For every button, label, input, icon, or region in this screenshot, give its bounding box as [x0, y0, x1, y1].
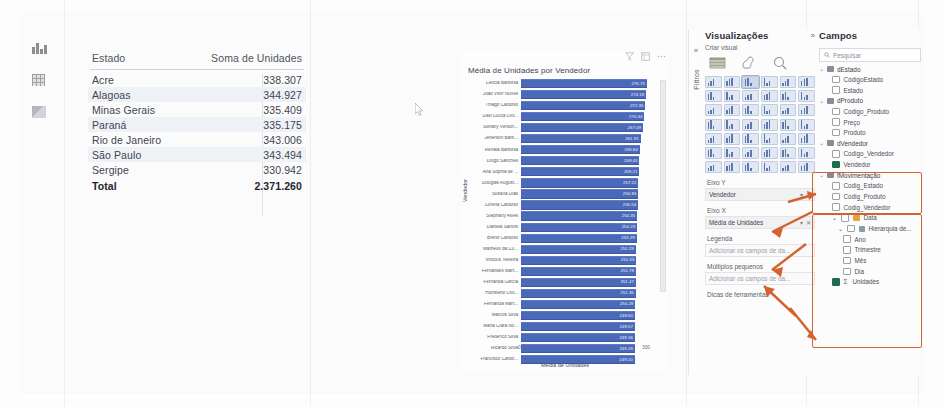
chevron-down-icon[interactable]: ⌄	[838, 225, 843, 232]
visual-type-icon[interactable]	[798, 90, 815, 102]
fields-field-node[interactable]: Trimestre	[843, 246, 921, 254]
fields-field-node[interactable]: Codig_Vendedor	[832, 203, 921, 211]
visual-type-icon[interactable]	[742, 133, 759, 145]
visual-type-icon[interactable]	[780, 119, 797, 131]
field-checkbox[interactable]	[832, 182, 840, 190]
visual-type-icon[interactable]	[705, 104, 722, 116]
fields-field-node[interactable]: Preço	[832, 118, 921, 126]
table-visual[interactable]: Estado Soma de Unidades Acre338.307Alago…	[88, 52, 306, 220]
visual-type-icon[interactable]	[761, 104, 778, 116]
well-slot[interactable]: Vendedor▾✕	[705, 188, 815, 201]
model-view-icon[interactable]	[32, 106, 46, 118]
field-checkbox[interactable]	[847, 225, 855, 233]
fields-tree[interactable]: ⌄dEstadoCódigoEstadoEstado⌄dProdutoCodig…	[819, 66, 921, 286]
field-checkbox[interactable]	[832, 118, 840, 126]
field-checkbox[interactable]	[843, 268, 851, 276]
fields-search-input[interactable]: Pesquisar	[819, 48, 921, 62]
field-checkbox[interactable]	[841, 214, 849, 222]
chart-bar-row[interactable]: Stefany Venturi...267.09	[466, 122, 658, 133]
table-row[interactable]: Paraná335.175	[88, 117, 306, 132]
remove-field-icon[interactable]: ✕	[806, 191, 811, 198]
chart-bar-row[interactable]: Matheus da Cu...251.29	[466, 244, 658, 255]
chart-bar-row[interactable]: Marcos Silva249.60	[466, 310, 658, 321]
visual-type-icon[interactable]	[798, 147, 815, 159]
visual-type-icon[interactable]	[705, 76, 722, 88]
chart-bar-row[interactable]: Humberto Oliv...251.35	[466, 288, 658, 299]
visual-type-icon[interactable]	[780, 104, 797, 116]
chevron-down-icon[interactable]: ▾	[800, 191, 803, 198]
field-checkbox[interactable]	[832, 129, 840, 137]
fields-table-node[interactable]: ⌄fMovimentação	[819, 172, 921, 179]
visual-type-icon[interactable]	[780, 133, 797, 145]
visual-type-icon[interactable]	[724, 133, 741, 145]
fields-field-node[interactable]: Mês	[843, 257, 921, 265]
visual-type-icon[interactable]	[742, 90, 759, 102]
chart-bar-row[interactable]: João Vitor Nunes274.18	[466, 89, 658, 100]
fields-field-node[interactable]: Dia	[843, 268, 921, 276]
table-row[interactable]: Rio de Janeiro343.006	[88, 132, 306, 147]
analytics-icon[interactable]	[771, 56, 788, 70]
visual-type-icon[interactable]	[705, 119, 722, 131]
chart-bar-row[interactable]: Frederico Silva249.36	[466, 332, 658, 343]
well-actions[interactable]: ▾✕	[800, 219, 811, 226]
visual-type-icon[interactable]	[724, 90, 741, 102]
visual-header-icons[interactable]	[625, 52, 666, 61]
chart-bar-row[interactable]: Vinicius Teixeira252.33	[466, 255, 658, 266]
fields-field-node[interactable]: Codig_Estado	[832, 182, 921, 190]
field-checkbox[interactable]	[832, 193, 840, 201]
visual-type-icon[interactable]	[761, 76, 778, 88]
visual-type-icon[interactable]	[780, 161, 797, 173]
chevron-right-icon[interactable]: »	[811, 31, 815, 40]
chart-scrollbar[interactable]	[660, 80, 666, 292]
field-checkbox[interactable]	[832, 86, 840, 94]
chart-bar-row[interactable]: Stephany Alves254.35	[466, 211, 658, 222]
report-view-icon[interactable]	[32, 42, 46, 54]
well-actions[interactable]: ▾✕	[800, 191, 811, 198]
chevron-down-icon[interactable]: ⌄	[819, 98, 824, 104]
field-checkbox[interactable]	[843, 235, 851, 243]
chart-bar-row[interactable]: Fernanda Mart...250.29	[466, 299, 658, 310]
chart-bar-row[interactable]: Susana Dias256.83	[466, 188, 658, 199]
fields-table-node[interactable]: ⌄dVendedor	[819, 140, 921, 147]
field-checkbox[interactable]	[843, 246, 851, 254]
visual-type-icon[interactable]	[798, 133, 815, 145]
fields-table-node[interactable]: ⌄dEstado	[819, 66, 921, 73]
chart-bar-row[interactable]: Maria Clara No...249.57	[466, 321, 658, 332]
well-slot[interactable]: Adicionar os campos de da...	[705, 244, 815, 257]
table-row[interactable]: Alagoas344.927	[88, 87, 306, 102]
visual-type-icon[interactable]	[724, 104, 741, 116]
visual-type-icon[interactable]	[761, 90, 778, 102]
visual-type-icon[interactable]	[780, 76, 797, 88]
chevron-down-icon[interactable]: ⌄	[819, 66, 824, 72]
field-checkbox[interactable]	[843, 257, 851, 265]
fields-field-node[interactable]: Codigo_Vendedor	[832, 150, 921, 158]
chart-bar-row[interactable]: Letícia Barbosa275.75	[466, 78, 658, 89]
build-visual-icon[interactable]	[709, 56, 726, 70]
fields-field-node[interactable]: ⌄Hierarquia de...	[838, 225, 921, 233]
format-visual-icon[interactable]	[740, 56, 757, 70]
visual-type-icon[interactable]	[780, 90, 797, 102]
visual-type-icon[interactable]	[761, 133, 778, 145]
table-row[interactable]: Acre338.307	[88, 72, 306, 87]
visual-type-icon[interactable]	[742, 147, 759, 159]
chart-bar-row[interactable]: Thiago Cardoso272.35	[466, 100, 658, 111]
focus-mode-icon[interactable]	[641, 52, 650, 61]
field-checkbox[interactable]	[832, 278, 840, 286]
fields-field-node[interactable]: CódigoEstado	[832, 76, 921, 84]
fields-field-node[interactable]: Ano	[843, 235, 921, 243]
chart-bar-row[interactable]: Daniela Santos254.23	[466, 222, 658, 233]
visual-type-icon[interactable]	[761, 147, 778, 159]
chevron-down-icon[interactable]: ⌄	[819, 172, 824, 178]
well-slot[interactable]: Adicionar os campos de da...	[705, 272, 815, 285]
data-view-icon[interactable]	[32, 74, 45, 86]
visual-type-icon[interactable]	[742, 119, 759, 131]
visual-type-icon[interactable]	[724, 147, 741, 159]
table-row[interactable]: Sergipe330.942	[88, 162, 306, 177]
chevron-down-icon[interactable]: ▾	[800, 219, 803, 226]
chart-bar-row[interactable]: Renata Barbosa259.84	[466, 144, 658, 155]
visual-type-icon[interactable]	[742, 76, 759, 88]
field-checkbox[interactable]	[832, 203, 840, 211]
fields-table-node[interactable]: ⌄dProduto	[819, 97, 921, 104]
visual-type-icon[interactable]	[705, 147, 722, 159]
fields-field-node[interactable]: Produto	[832, 129, 921, 137]
